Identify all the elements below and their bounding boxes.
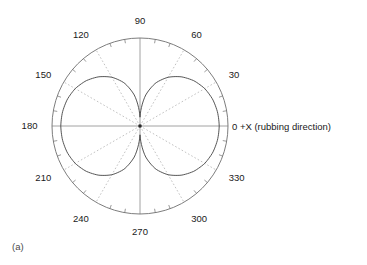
tick-260 — [125, 209, 126, 213]
tick-40 — [204, 69, 207, 72]
angle-label-330: 330 — [229, 172, 245, 183]
tick-140 — [73, 69, 76, 72]
tick-310 — [194, 190, 197, 193]
tick-220 — [73, 180, 76, 183]
tick-80 — [155, 39, 156, 43]
center-dot — [138, 124, 142, 128]
tick-170 — [53, 111, 57, 112]
tick-340 — [219, 155, 223, 156]
angle-label-210: 210 — [35, 172, 51, 183]
panel-label: (a) — [12, 241, 24, 252]
grid-ray-240 — [96, 126, 140, 202]
tick-130 — [83, 59, 86, 62]
angle-label-270: 270 — [132, 226, 148, 237]
angle-label-60: 60 — [191, 29, 202, 40]
origin-dot — [138, 124, 142, 128]
tick-190 — [53, 141, 57, 142]
grid-ray-120 — [96, 50, 140, 126]
angle-label-300: 300 — [191, 213, 207, 224]
tick-290 — [169, 205, 170, 209]
tick-160 — [57, 96, 61, 97]
tick-200 — [57, 155, 61, 156]
tick-320 — [204, 180, 207, 183]
grid-ray-60 — [140, 50, 184, 126]
tick-50 — [194, 59, 197, 62]
zero-axis-label: 0 +X (rubbing direction) — [232, 121, 331, 132]
angle-label-90: 90 — [135, 15, 146, 26]
tick-110 — [110, 43, 111, 47]
tick-230 — [83, 190, 86, 193]
tick-70 — [169, 43, 170, 47]
tick-250 — [110, 205, 111, 209]
tick-20 — [219, 96, 223, 97]
angle-label-150: 150 — [35, 69, 51, 80]
angle-label-120: 120 — [73, 29, 89, 40]
angle-labels: 306090120150180210240270300330 — [22, 15, 245, 237]
grid-ray-300 — [140, 126, 184, 202]
tick-350 — [223, 141, 227, 142]
polar-plot-figure: 306090120150180210240270300330 0 +X (rub… — [0, 0, 367, 265]
angle-label-30: 30 — [229, 69, 240, 80]
tick-10 — [223, 111, 227, 112]
tick-100 — [125, 39, 126, 43]
tick-280 — [155, 209, 156, 213]
angle-label-240: 240 — [73, 213, 89, 224]
angle-label-180: 180 — [22, 120, 38, 131]
